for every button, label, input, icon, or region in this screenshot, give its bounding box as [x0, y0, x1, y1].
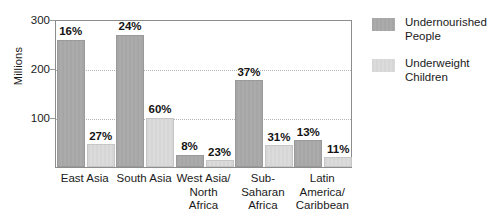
- x-axis-label-line: Latin: [293, 172, 352, 186]
- legend-label-line2: Children: [405, 71, 490, 85]
- x-axis-label: East Asia: [55, 172, 114, 186]
- bar-data-label: 23%: [208, 147, 231, 159]
- chart-container: Millions 300 200 100 16%27%24%60%8%23%37…: [0, 0, 493, 219]
- bar-data-label: 11%: [327, 144, 349, 156]
- bar-series-group: 16%27%24%60%8%23%37%31%13%11%: [56, 21, 351, 167]
- bar[interactable]: [294, 140, 322, 167]
- bar-data-label: 60%: [149, 104, 172, 116]
- x-axis-label-line: East Asia: [55, 172, 114, 186]
- bar-data-label: 31%: [267, 132, 290, 144]
- bar[interactable]: [235, 80, 263, 167]
- bar-group: 13%11%: [294, 21, 352, 167]
- legend-label-line1: Underweight: [405, 57, 490, 71]
- legend-item-undernourished-people: Undernourished People: [372, 16, 490, 44]
- bar[interactable]: [57, 40, 85, 167]
- bar-group: 16%27%: [57, 21, 115, 167]
- x-axis-label-line: North: [174, 186, 233, 200]
- bar-data-label: 27%: [89, 131, 112, 143]
- x-axis-label: Sub-SaharanAfrica: [233, 172, 292, 213]
- x-axis-label: LatinAmerica/Caribbean: [293, 172, 352, 213]
- y-axis: Millions 300 200 100: [0, 0, 50, 219]
- bar[interactable]: [265, 145, 293, 167]
- bar[interactable]: [176, 155, 204, 167]
- legend-swatch-underweight-children: [372, 59, 395, 72]
- plot-area: 16%27%24%60%8%23%37%31%13%11%: [55, 20, 352, 168]
- x-axis-label-line: Africa: [233, 199, 292, 213]
- legend-label-underweight-children: Underweight Children: [405, 57, 490, 84]
- legend-label-undernourished-people: Undernourished People: [405, 16, 490, 43]
- bar-data-label: 37%: [237, 67, 260, 79]
- x-axis-label-line: Sub-: [233, 172, 292, 186]
- legend-swatch-undernourished-people: [372, 18, 395, 31]
- bar-data-label: 24%: [119, 21, 142, 33]
- y-tick-label-200: 200: [10, 64, 50, 76]
- bar[interactable]: [146, 118, 174, 167]
- x-axis-label-line: Caribbean: [293, 199, 352, 213]
- bar-data-label: 8%: [181, 141, 198, 153]
- legend-label-line1: Undernourished: [405, 16, 490, 30]
- bar-data-label: 16%: [59, 26, 82, 38]
- x-axis-label-line: Saharan: [233, 186, 292, 200]
- x-axis-label: West Asia/NorthAfrica: [174, 172, 233, 213]
- bar[interactable]: [206, 160, 234, 167]
- y-tick-label-100: 100: [10, 113, 50, 125]
- bar[interactable]: [116, 35, 144, 167]
- x-axis-label: South Asia: [114, 172, 173, 186]
- y-tick-label-300: 300: [10, 15, 50, 27]
- x-axis-label-line: West Asia/: [174, 172, 233, 186]
- x-axis-label-line: South Asia: [114, 172, 173, 186]
- chart-legend: Undernourished People Underweight Childr…: [372, 16, 490, 98]
- legend-label-line2: People: [405, 30, 490, 44]
- x-axis-label-line: America/: [293, 186, 352, 200]
- legend-item-underweight-children: Underweight Children: [372, 57, 490, 85]
- bar-group: 8%23%: [176, 21, 234, 167]
- bar[interactable]: [324, 157, 352, 167]
- bar-data-label: 13%: [297, 127, 320, 139]
- x-axis-label-line: Africa: [174, 199, 233, 213]
- bar-group: 37%31%: [235, 21, 293, 167]
- x-axis-labels: East AsiaSouth AsiaWest Asia/NorthAfrica…: [55, 172, 352, 219]
- bar-group: 24%60%: [116, 21, 174, 167]
- bar[interactable]: [87, 144, 115, 167]
